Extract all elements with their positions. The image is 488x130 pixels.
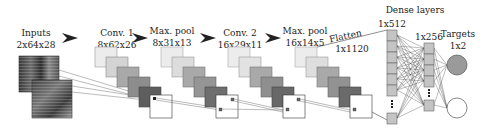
dense-block: Dense layers 1x512 1x256 xyxy=(378,5,447,124)
pool1-shape: 8x31x13 xyxy=(153,38,192,48)
dense2-shape: 1x256 xyxy=(415,32,443,42)
dense2-to-targets-connections xyxy=(434,48,447,108)
target-node-filled xyxy=(447,55,467,75)
dense2-neurons xyxy=(424,43,434,111)
arrow-icon xyxy=(62,33,78,43)
conv2-title: Conv. 2 xyxy=(223,28,257,38)
arrow-icon xyxy=(200,33,216,43)
target-node-empty xyxy=(447,98,467,118)
flatten-title: Flatten xyxy=(328,28,362,45)
targets-shape: 1x2 xyxy=(450,41,467,51)
inputs-title: Inputs xyxy=(21,28,51,38)
dense-title: Dense layers xyxy=(386,5,445,15)
conv1-title: Conv. 1 xyxy=(100,28,134,38)
inputs-shape: 2x64x28 xyxy=(17,40,56,50)
cnn-architecture-diagram: Inputs 2x64x28 xyxy=(0,0,488,130)
targets-title: Targets xyxy=(441,29,476,39)
pool2-title: Max. pool xyxy=(283,26,328,36)
pool1-title: Max. pool xyxy=(150,26,195,36)
arrow-icon xyxy=(265,33,281,43)
dense1-neurons xyxy=(387,30,397,124)
dense1-shape: 1x512 xyxy=(378,19,406,29)
dense1-to-dense2-connections xyxy=(397,35,424,118)
dense2-ellipsis-icon xyxy=(428,89,430,97)
flatten-shape: 1x1120 xyxy=(335,44,369,54)
dense1-ellipsis-icon xyxy=(391,100,393,108)
